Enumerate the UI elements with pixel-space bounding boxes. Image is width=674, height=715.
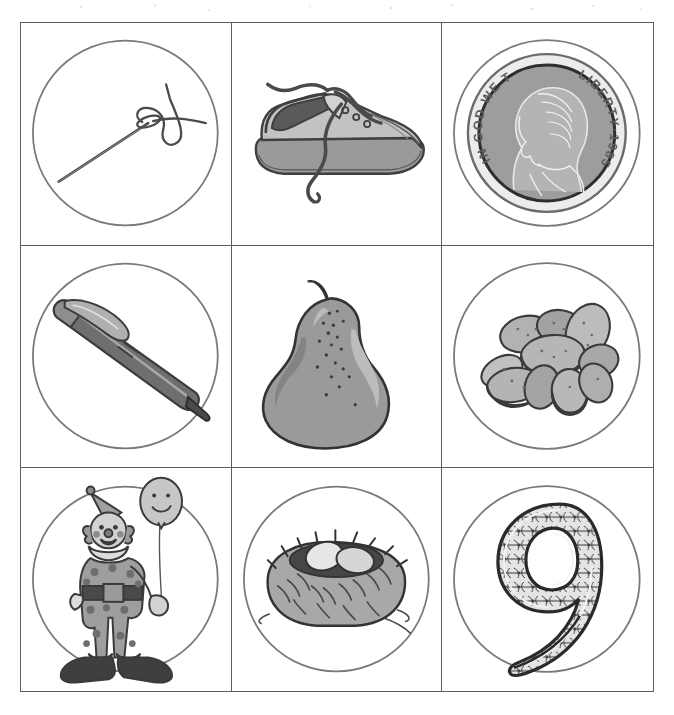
- grid-cell-nuts[interactable]: [442, 246, 653, 469]
- pear-icon: [232, 246, 442, 468]
- grid-cell-nest[interactable]: [232, 468, 443, 691]
- picture-grid: IN GOD WE TRUST LIBERTY·1985: [20, 22, 654, 692]
- pen-icon: [21, 246, 231, 468]
- nuts-icon: [442, 246, 653, 468]
- nest-icon: [232, 468, 442, 691]
- worksheet-page: IN GOD WE TRUST LIBERTY·1985: [0, 0, 674, 715]
- grid-cell-shoe[interactable]: [232, 23, 443, 246]
- grid-cell-nickel[interactable]: IN GOD WE TRUST LIBERTY·1985: [442, 23, 653, 246]
- nickel-coin-icon: IN GOD WE TRUST LIBERTY·1985: [442, 23, 653, 245]
- grid-cell-clown[interactable]: [21, 468, 232, 691]
- numeral-nine-icon: [442, 468, 653, 691]
- grid-cell-needle[interactable]: [21, 23, 232, 246]
- grid-cell-numeral-nine[interactable]: [442, 468, 653, 691]
- clown-icon: [21, 468, 231, 691]
- scan-noise-artifact: [0, 0, 674, 18]
- grid-cell-pen[interactable]: [21, 246, 232, 469]
- shoe-icon: [232, 23, 442, 245]
- grid-cell-pear[interactable]: [232, 246, 443, 469]
- needle-thread-icon: [21, 23, 231, 245]
